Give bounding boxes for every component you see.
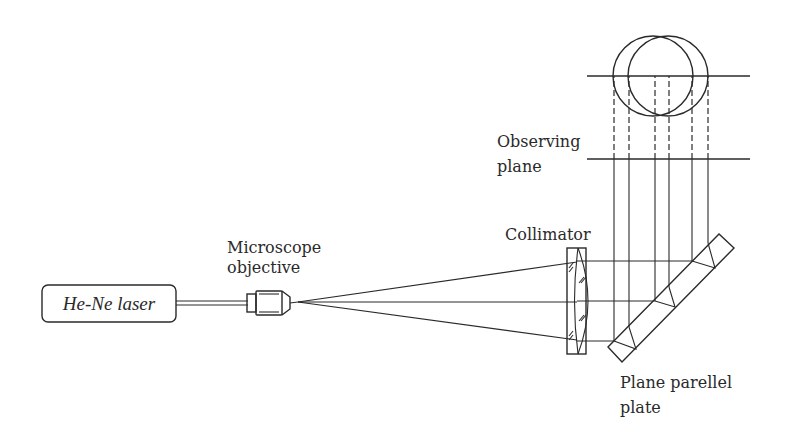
plane-parallel-plate (608, 234, 734, 362)
laser-label: He-Ne laser (62, 293, 156, 314)
collimated-beam (577, 261, 692, 341)
laser-source: He-Ne laser (42, 285, 176, 322)
laser-beam-tube (176, 301, 248, 305)
plate-label-line2: plate (620, 398, 661, 417)
observing-label-line2: plane (497, 157, 542, 176)
reflected-beams-solid (614, 159, 708, 341)
diverging-beam (290, 262, 577, 340)
observing-label-line1: Observing (497, 132, 580, 151)
projection-lines-dashed (614, 76, 708, 159)
objective-label-line1: Microscope (227, 238, 321, 257)
plate-label-line1: Plane parellel (620, 373, 732, 392)
microscope-objective (247, 291, 290, 315)
interferometer-diagram: He-Ne laser Microscope objective Col (0, 0, 788, 440)
objective-label-line2: objective (227, 258, 300, 277)
collimator-label: Collimator (505, 225, 591, 244)
